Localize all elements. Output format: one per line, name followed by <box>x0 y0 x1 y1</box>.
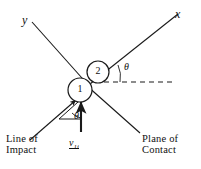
theta-velocity-label: θ <box>74 111 79 122</box>
line-of-impact-caption-line2: Impact <box>6 144 38 155</box>
plane-of-contact-caption-line2: Contact <box>142 144 178 155</box>
plane-of-contact-caption: Plane of Contact <box>142 133 178 155</box>
y-axis-label: y <box>22 14 27 27</box>
x-axis-label: x <box>175 8 180 21</box>
plane-of-contact-caption-line1: Plane of <box>142 133 178 144</box>
line-of-impact-caption: Line of Impact <box>6 133 38 155</box>
theta-axis-label: θ <box>124 62 129 73</box>
particle-2-label: 2 <box>93 66 103 77</box>
particle-1-label: 1 <box>75 84 85 95</box>
impact-diagram-figure: y x 1 2 θ θ v1i Line of Impact Plane of … <box>0 0 201 169</box>
theta-axis-arc <box>118 65 121 82</box>
y-axis-line <box>32 22 90 87</box>
velocity-subscript: 1i <box>73 143 78 151</box>
plane-of-contact-line <box>86 85 140 133</box>
velocity-vector-label: v1i <box>69 133 79 151</box>
line-of-impact-caption-line1: Line of <box>6 133 38 144</box>
